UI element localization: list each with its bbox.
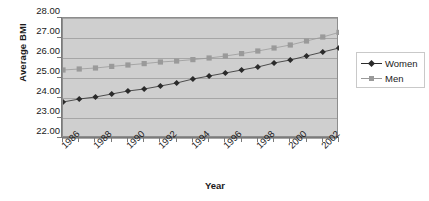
y-axis-tick-label: 24.00 xyxy=(16,86,60,96)
data-point-men xyxy=(288,42,293,47)
y-axis-tick-label: 28.00 xyxy=(16,6,60,16)
data-point-women xyxy=(238,67,244,73)
y-axis-tick-labels: 22.0023.0024.0025.0026.0027.0028.00 xyxy=(16,11,60,143)
data-point-men xyxy=(174,58,179,63)
data-point-men xyxy=(207,55,212,60)
legend-label-women: Women xyxy=(385,58,418,69)
series-line-men xyxy=(63,32,339,70)
data-point-men xyxy=(271,45,276,50)
data-point-women xyxy=(63,99,66,105)
data-point-men xyxy=(304,38,309,43)
data-point-women xyxy=(336,45,339,51)
y-axis-tick-label: 23.00 xyxy=(16,106,60,116)
data-point-women xyxy=(125,88,131,94)
data-point-women xyxy=(157,83,163,89)
data-point-men xyxy=(93,65,98,70)
x-axis-title: Year xyxy=(150,180,280,191)
data-point-men xyxy=(63,67,66,72)
y-axis-tick-label: 26.00 xyxy=(16,46,60,56)
data-point-men xyxy=(336,30,339,35)
women-series-key-icon xyxy=(361,58,382,69)
data-point-men xyxy=(190,57,195,62)
data-point-men xyxy=(109,64,114,69)
data-point-women xyxy=(303,53,309,59)
data-point-men xyxy=(255,48,260,53)
data-point-women xyxy=(222,70,228,76)
data-point-women xyxy=(174,80,180,86)
y-axis-tick-label: 27.00 xyxy=(16,26,60,36)
data-point-women xyxy=(255,64,261,70)
data-point-women xyxy=(76,96,82,102)
data-point-men xyxy=(223,53,228,58)
series-line-women xyxy=(63,48,339,102)
data-point-women xyxy=(271,60,277,66)
y-axis-tick-label: 25.00 xyxy=(16,66,60,76)
chart-legend: Women Men xyxy=(356,52,425,88)
data-point-women xyxy=(320,49,326,55)
x-axis-tick-labels: 198619881990199219941996199820002002 xyxy=(62,143,352,175)
men-series-key-icon xyxy=(361,73,382,84)
data-point-women xyxy=(190,76,196,82)
legend-label-men: Men xyxy=(385,73,403,84)
data-point-women xyxy=(287,57,293,63)
data-point-women xyxy=(206,73,212,79)
plot-area xyxy=(62,17,338,137)
data-point-women xyxy=(141,86,147,92)
y-axis-line xyxy=(61,17,62,138)
data-point-men xyxy=(142,61,147,66)
data-point-men xyxy=(125,62,130,67)
y-axis-tick-label: 22.00 xyxy=(16,126,60,136)
data-point-women xyxy=(92,94,98,100)
data-point-men xyxy=(239,51,244,56)
legend-item-women[interactable]: Women xyxy=(361,56,420,71)
data-point-men xyxy=(77,66,82,71)
data-point-men xyxy=(158,59,163,64)
data-series-layer xyxy=(63,18,339,138)
data-point-men xyxy=(320,34,325,39)
bmi-line-chart: Average BMI 22.0023.0024.0025.0026.0027.… xyxy=(0,0,429,201)
data-point-women xyxy=(109,91,115,97)
legend-item-men[interactable]: Men xyxy=(361,71,420,86)
